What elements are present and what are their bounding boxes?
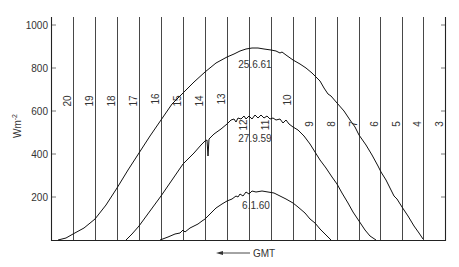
arrowhead-icon [216,251,223,255]
curve-6-1-60 [160,191,331,240]
hour-label-17: 17 [128,95,139,107]
hour-label-6: 6 [369,121,380,127]
x-axis-label: GMT [253,248,275,259]
hour-label-7: 7 [348,121,359,127]
hour-label-15: 15 [172,95,183,107]
hour-label-3: 3 [434,121,445,127]
hour-label-14: 14 [194,95,205,107]
annotation-27-9-59: 27.9.59 [238,133,272,144]
x-axis-label-group: GMT [216,248,275,259]
curve-25-6-61 [58,48,423,240]
solar-irradiance-chart: 1000 800 600 400 200 Wm-2 20 19 18 17 16… [0,0,459,267]
ytick-600: 600 [31,106,48,117]
hour-label-16: 16 [150,93,161,105]
y-axis-label: Wm-2 [11,114,23,138]
hour-label-11: 11 [260,119,271,130]
y-tick-labels: 1000 800 600 400 200 [26,20,49,203]
hour-label-12: 12 [238,119,249,131]
ytick-400: 400 [31,149,48,160]
annotation-25-6-61: 25.6.61 [238,59,272,70]
ytick-1000: 1000 [26,20,49,31]
hour-label-10: 10 [282,94,293,106]
y-tick-marks [52,25,445,197]
hour-label-8: 8 [326,121,337,127]
ytick-800: 800 [31,63,48,74]
hour-labels: 20 19 18 17 16 15 14 13 12 11 10 9 8 7 6… [62,93,445,131]
hour-label-20: 20 [62,95,73,107]
hour-label-18: 18 [106,95,117,107]
ytick-200: 200 [31,192,48,203]
hour-label-9: 9 [304,121,315,127]
hour-label-4: 4 [412,121,423,127]
hour-label-19: 19 [84,95,95,107]
hour-label-5: 5 [391,121,402,127]
annotation-6-1-60: 6.1.60 [242,200,270,211]
hour-label-13: 13 [216,93,227,105]
